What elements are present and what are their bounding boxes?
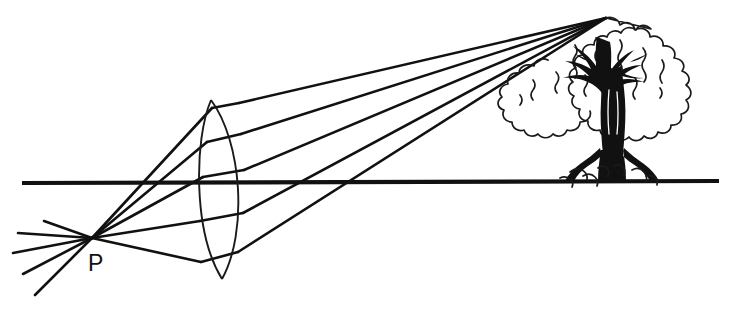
in-lens-ray-3 bbox=[203, 170, 244, 177]
foliage-squiggle bbox=[531, 80, 535, 100]
in-lens-ray-2 bbox=[207, 134, 241, 142]
refracted-ray-5 bbox=[238, 18, 606, 252]
ray-diagram-canvas: P bbox=[0, 0, 731, 310]
refracted-ray-1 bbox=[239, 18, 606, 103]
foliage-squiggle bbox=[660, 60, 664, 83]
refracted-ray-bundle bbox=[238, 18, 606, 252]
in-lens-ray-4 bbox=[200, 213, 243, 221]
foliage-squiggle bbox=[520, 95, 522, 105]
incident-ray-5 bbox=[92, 238, 201, 262]
optics-ray-diagram: P bbox=[0, 0, 731, 310]
lens-left-surface bbox=[199, 100, 222, 279]
tree-roots bbox=[565, 148, 659, 182]
foliage-squiggle bbox=[555, 72, 559, 93]
foliage-squiggle bbox=[642, 48, 646, 82]
incident-ray-bundle bbox=[92, 108, 212, 262]
foliage-squiggle bbox=[660, 88, 662, 98]
incident-ray-1 bbox=[92, 108, 212, 238]
diverging-ray-fan-left bbox=[13, 221, 92, 295]
point-p-label: P bbox=[88, 250, 103, 276]
refracted-ray-3 bbox=[244, 18, 606, 170]
